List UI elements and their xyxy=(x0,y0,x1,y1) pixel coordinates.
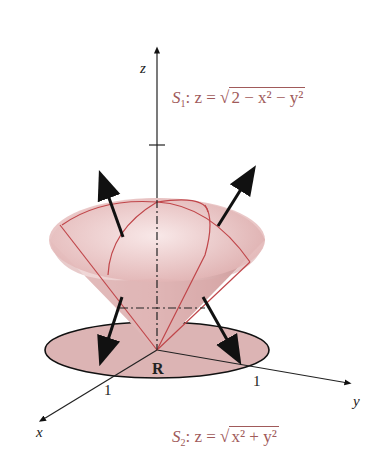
x-axis-label: x xyxy=(36,424,43,441)
surface-1-prefix: : z = xyxy=(186,88,221,107)
region-label: R xyxy=(152,360,164,378)
surface-2-prefix: : z = xyxy=(186,427,221,446)
surface-2-name: S xyxy=(172,427,181,446)
y-axis-label: y xyxy=(353,393,360,410)
surface-2-equation: S2: z = √x² + y² xyxy=(172,427,279,448)
y-tick-label: 1 xyxy=(253,373,261,390)
surface-2-radicand: x² + y² xyxy=(229,426,278,446)
surface-1-name: S xyxy=(172,88,181,107)
solid-diagram xyxy=(0,0,387,476)
x-tick-label: 1 xyxy=(104,382,112,399)
surface-1-radicand: 2 − x² − y² xyxy=(229,87,305,107)
z-axis-label: z xyxy=(140,60,146,77)
solid-body xyxy=(49,198,265,350)
surface-1-equation: S1: z = √2 − x² − y² xyxy=(172,88,305,109)
